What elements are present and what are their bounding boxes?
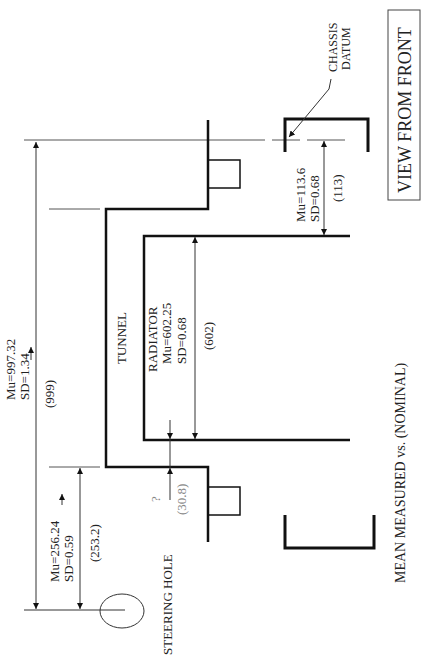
view-title-box: VIEW FROM FRONT xyxy=(388,10,420,200)
steering-hole-label: STEERING HOLE xyxy=(160,554,175,655)
tunnel-tab-top xyxy=(208,160,240,188)
tunnel-label: TUNNEL xyxy=(114,312,129,364)
datum-radiator-mean-label: Mu=113.6 xyxy=(293,167,308,222)
tunnel-radiator-gap-nominal: (30.8) xyxy=(174,484,189,515)
steering-mean-label: Mu=256.24 xyxy=(47,520,62,582)
steering-nominal-label: (253.2) xyxy=(87,524,102,562)
tunnel-radiator-gap-mean: ? xyxy=(148,496,163,502)
radiator-mean-label: Mu=602.25 xyxy=(159,303,174,364)
chassis-bracket-top xyxy=(285,119,368,152)
radiator-nominal-label: (602) xyxy=(201,322,216,350)
view-title: VIEW FROM FRONT xyxy=(395,27,415,193)
chassis-datum-leader xyxy=(289,79,331,137)
caption: MEAN MEASURED vs. (NOMINAL) xyxy=(393,363,409,583)
overall-sd-label: SD=1.34 xyxy=(17,353,32,400)
overall-nominal-label: (999) xyxy=(42,380,57,408)
datum-radiator-nominal-label: (113) xyxy=(330,174,345,202)
steering-sd-label: SD=0.59 xyxy=(61,535,76,582)
steering-hole xyxy=(100,594,144,628)
overall-mean-label: Mu=997.32 xyxy=(3,339,18,400)
datum-radiator-sd-label: SD=0.68 xyxy=(307,175,322,222)
radiator-label: RADIATOR xyxy=(145,306,160,372)
tunnel-tab-bottom xyxy=(208,487,240,515)
chassis-datum-label-line2: DATUM xyxy=(339,27,353,70)
chassis-front-view-diagram: Mu=997.32 SD=1.34 (999) Mu=256.24 SD=0.5… xyxy=(0,0,431,659)
chassis-datum-label-line1: CHASSIS xyxy=(326,23,340,72)
radiator-sd-label: SD=0.68 xyxy=(174,317,189,364)
chassis-bracket-bottom xyxy=(285,515,374,548)
